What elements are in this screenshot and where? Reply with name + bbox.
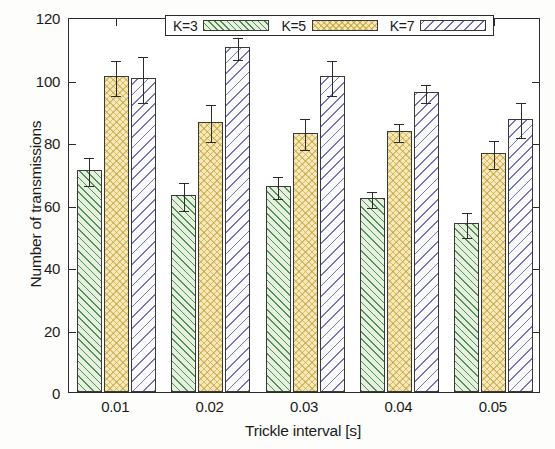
error-bar-cap [489,169,499,170]
bar-K3-0.04 [360,198,385,392]
y-tick-label: 80 [14,135,60,152]
chart-legend: K=3K=5K=7 [165,15,494,36]
legend-swatch-K7 [420,20,486,31]
bar-K3-0.01 [77,170,102,392]
legend-entry-K5: K=5 [281,18,377,34]
y-tick-label: 20 [14,322,60,339]
legend-entry-K7: K=7 [390,18,486,34]
error-bar-cap [516,103,526,104]
legend-swatch-K5 [312,20,378,31]
error-bar-cap [138,57,148,58]
y-tick-mark [532,82,539,83]
legend-label: K=3 [173,18,197,34]
error-bar-cap [206,105,216,106]
bar-K7-0.03 [320,76,345,392]
y-tick-label: 120 [14,10,60,27]
y-tick-label: 60 [14,197,60,214]
error-bar [278,177,279,199]
error-bar-cap [394,142,404,143]
error-bar-cap [206,142,216,143]
error-bar-cap [327,96,337,97]
error-bar-cap [179,211,189,212]
error-bar [426,85,427,104]
error-bar [467,213,468,238]
error-bar-cap [111,96,121,97]
bar-K7-0.01 [131,78,156,392]
error-bar-cap [111,61,121,62]
error-bar-cap [462,213,472,214]
error-bar-cap [138,103,148,104]
bar-K7-0.05 [508,119,533,392]
x-tick-label: 0.03 [259,398,349,415]
error-bar-cap [367,192,377,193]
y-tick-mark [69,207,76,208]
error-bar [116,61,117,95]
error-bar [184,183,185,211]
y-tick-label: 40 [14,260,60,277]
bar-chart-figure: Number of transmissions Trickle interval… [0,0,555,449]
bar-K7-0.04 [414,92,439,392]
y-tick-mark [69,144,76,145]
error-bar [305,119,306,150]
legend-entry-K3: K=3 [173,18,269,34]
error-bar [372,192,373,208]
error-bar-cap [489,141,499,142]
error-bar-cap [273,199,283,200]
error-bar [143,57,144,104]
bar-K5-0.04 [387,131,412,392]
error-bar-cap [367,208,377,209]
error-bar [332,61,333,95]
legend-swatch-K3 [203,20,269,31]
error-bar-cap [233,38,243,39]
bar-K5-0.05 [481,153,506,392]
error-bar-cap [327,61,337,62]
bar-K5-0.01 [104,76,129,392]
error-bar-cap [179,183,189,184]
plot-area [68,18,540,393]
error-bar [521,103,522,137]
error-bar-cap [394,124,404,125]
error-bar-cap [462,238,472,239]
bar-K5-0.02 [198,122,223,392]
error-bar [211,105,212,143]
bar-K5-0.03 [293,133,318,392]
bar-K3-0.03 [266,186,291,392]
legend-label: K=5 [281,18,305,34]
bar-K3-0.02 [171,195,196,392]
error-bar [89,158,90,186]
y-tick-mark [69,332,76,333]
error-bar-cap [421,103,431,104]
bar-K3-0.05 [454,223,479,392]
x-tick-label: 0.02 [165,398,255,415]
x-tick-label: 0.01 [70,398,160,415]
x-axis-label: Trickle interval [s] [68,422,538,440]
y-tick-label: 100 [14,72,60,89]
x-tick-mark [116,19,117,26]
error-bar [238,38,239,60]
error-bar-cap [84,186,94,187]
y-tick-mark [69,82,76,83]
legend-label: K=7 [390,18,414,34]
y-tick-label: 0 [14,385,60,402]
bar-K7-0.02 [225,47,250,392]
x-tick-label: 0.04 [353,398,443,415]
error-bar [399,124,400,143]
error-bar-cap [233,60,243,61]
y-tick-mark [69,269,76,270]
error-bar [494,141,495,169]
error-bar-cap [300,150,310,151]
error-bar-cap [421,85,431,86]
error-bar-cap [516,138,526,139]
error-bar-cap [273,177,283,178]
error-bar-cap [300,119,310,120]
error-bar-cap [84,158,94,159]
x-tick-label: 0.05 [448,398,538,415]
